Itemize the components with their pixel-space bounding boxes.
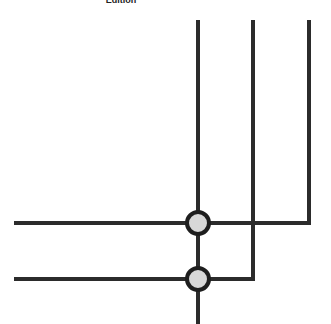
- wire-top: [14, 20, 309, 223]
- junction-node-1: [187, 212, 209, 234]
- junction-node-2: [187, 268, 209, 290]
- wiring-diagram: [0, 0, 331, 324]
- wire-bottom: [14, 20, 253, 279]
